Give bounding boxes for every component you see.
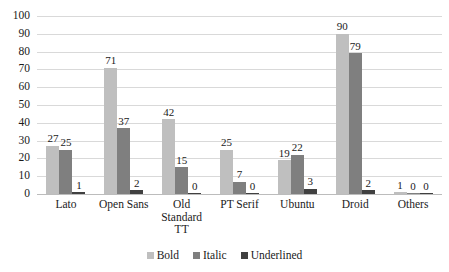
- bar[interactable]: [188, 193, 201, 194]
- bar-value-label: 90: [337, 21, 348, 32]
- bar-slot: 2: [362, 16, 375, 194]
- bar-slot: 2: [130, 16, 143, 194]
- x-axis-category-label: Droid: [326, 198, 384, 236]
- bar[interactable]: [220, 150, 233, 195]
- bar-value-label: 3: [308, 176, 314, 187]
- bar[interactable]: [72, 192, 85, 194]
- legend: BoldItalicUnderlined: [0, 250, 449, 262]
- legend-item[interactable]: Bold: [147, 250, 179, 262]
- bar-value-label: 22: [292, 142, 303, 153]
- y-axis-tick-label: 60: [19, 81, 31, 93]
- bar-value-label: 25: [221, 137, 232, 148]
- bar[interactable]: [59, 150, 72, 195]
- x-axis-category-label-line: TT: [153, 223, 211, 236]
- bar-group: 19223: [268, 16, 326, 194]
- x-axis-category-label-line: Others: [384, 198, 442, 211]
- bar-group: 100: [384, 16, 442, 194]
- bar[interactable]: [304, 189, 317, 194]
- legend-label: Italic: [203, 250, 227, 262]
- bar-value-label: 19: [279, 148, 290, 159]
- x-axis-category-label-line: Lato: [37, 198, 95, 211]
- x-axis-category-label: Others: [384, 198, 442, 236]
- bar-cluster: 90792: [336, 16, 375, 194]
- bar-slot: 27: [46, 16, 59, 194]
- bar-value-label: 2: [134, 178, 140, 189]
- bar-value-label: 37: [118, 116, 129, 127]
- y-axis-tick-label: 90: [19, 28, 31, 40]
- bar-slot: 0: [420, 16, 433, 194]
- y-axis-tick-label: 30: [19, 135, 31, 147]
- x-axis-category-label: Open Sans: [95, 198, 153, 236]
- bar-cluster: 100: [394, 16, 433, 194]
- bar-slot: 90: [336, 16, 349, 194]
- legend-item[interactable]: Italic: [193, 250, 227, 262]
- legend-swatch-icon: [241, 252, 248, 259]
- bar-chart: 1009080706050403020100 27251713724215025…: [0, 0, 449, 272]
- bar[interactable]: [407, 193, 420, 194]
- bar-slot: 19: [278, 16, 291, 194]
- bar-value-label: 71: [105, 55, 116, 66]
- y-axis-tick-label: 50: [19, 99, 31, 111]
- bar[interactable]: [349, 53, 362, 194]
- y-axis-tick-label: 0: [24, 188, 30, 200]
- bar-value-label: 79: [350, 41, 361, 52]
- bar[interactable]: [162, 119, 175, 194]
- legend-label: Underlined: [251, 250, 303, 262]
- bar-value-label: 0: [410, 181, 416, 192]
- bar-slot: 0: [407, 16, 420, 194]
- x-axis-category-label-line: Open Sans: [95, 198, 153, 211]
- plot-area: 27251713724215025701922390792100: [37, 16, 442, 194]
- bar-value-label: 0: [423, 181, 429, 192]
- bar-cluster: 19223: [278, 16, 317, 194]
- x-axis-category-label: Lato: [37, 198, 95, 236]
- bar-slot: 25: [59, 16, 72, 194]
- bar-group: 42150: [153, 16, 211, 194]
- bar-group: 27251: [37, 16, 95, 194]
- y-axis-tick-label: 70: [19, 64, 31, 76]
- bar-slot: 0: [246, 16, 259, 194]
- bar[interactable]: [104, 68, 117, 194]
- bar-cluster: 71372: [104, 16, 143, 194]
- x-axis-category-label: Ubuntu: [268, 198, 326, 236]
- bar-value-label: 7: [237, 169, 243, 180]
- legend-item[interactable]: Underlined: [241, 250, 303, 262]
- bar-cluster: 42150: [162, 16, 201, 194]
- bar[interactable]: [420, 193, 433, 194]
- bar[interactable]: [362, 190, 375, 194]
- bar-value-label: 42: [163, 107, 174, 118]
- bar-value-label: 0: [192, 181, 198, 192]
- bar-slot: 15: [175, 16, 188, 194]
- bar[interactable]: [278, 160, 291, 194]
- bar-slot: 7: [233, 16, 246, 194]
- bar[interactable]: [117, 128, 130, 194]
- bar-group: 2570: [211, 16, 269, 194]
- bar[interactable]: [336, 34, 349, 194]
- bar-slot: 37: [117, 16, 130, 194]
- x-axis-category-label-line: Standard: [153, 211, 211, 224]
- bar[interactable]: [394, 192, 407, 194]
- bar-slot: 0: [188, 16, 201, 194]
- y-axis-tick-label: 10: [19, 170, 31, 182]
- bar[interactable]: [175, 167, 188, 194]
- x-axis-category-label-line: PT Serif: [211, 198, 269, 211]
- bar-slot: 42: [162, 16, 175, 194]
- bar-groups: 27251713724215025701922390792100: [37, 16, 442, 194]
- x-axis-category-label-line: Old: [153, 198, 211, 211]
- legend-swatch-icon: [193, 252, 200, 259]
- bar[interactable]: [46, 146, 59, 194]
- bar-value-label: 1: [76, 180, 82, 191]
- bar-value-label: 1: [397, 180, 403, 191]
- bar[interactable]: [130, 190, 143, 194]
- y-axis-tick-label: 100: [13, 10, 30, 22]
- bar-slot: 3: [304, 16, 317, 194]
- bar[interactable]: [246, 193, 259, 194]
- x-axis-category-label: PT Serif: [211, 198, 269, 236]
- bar[interactable]: [233, 182, 246, 194]
- y-axis-tick-label: 80: [19, 46, 31, 58]
- bar-slot: 1: [72, 16, 85, 194]
- bar[interactable]: [291, 155, 304, 194]
- bar-value-label: 15: [176, 155, 187, 166]
- bar-group: 90792: [326, 16, 384, 194]
- bar-slot: 1: [394, 16, 407, 194]
- bar-value-label: 0: [250, 181, 256, 192]
